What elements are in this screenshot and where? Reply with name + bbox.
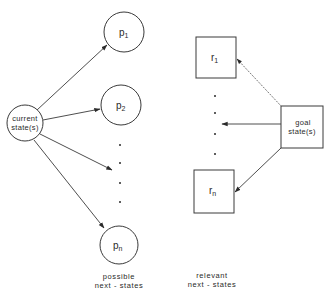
possible-state-node-p2: p2 <box>101 85 141 125</box>
relevant-caption-line1: relevant <box>196 271 228 280</box>
current-state-label-line2: state(s) <box>11 123 39 132</box>
relevant-caption-line2: next - states <box>188 280 237 289</box>
pn-subscript: n <box>119 245 123 252</box>
current-state-node: current state(s) <box>7 105 43 141</box>
relevant-states-ellipsis <box>214 95 216 155</box>
possible-states-ellipsis <box>119 144 121 203</box>
relevant-state-node-r1: r1 <box>196 37 236 78</box>
possible-state-node-p1: p1 <box>104 12 144 52</box>
goal-state-label-line1: goal <box>295 118 310 127</box>
edge-goal-to-r1 <box>237 59 282 107</box>
goal-state-node: goal state(s) <box>281 106 323 148</box>
current-state-label-line1: current <box>12 114 38 123</box>
search-direction-diagram: current state(s) p1 p2 pn possible next … <box>0 0 335 306</box>
edge-current-to-ellipsis <box>40 134 112 170</box>
edge-goal-to-rn <box>235 148 281 192</box>
edge-current-to-pn <box>34 140 104 228</box>
possible-caption-line2: next - states <box>95 281 144 290</box>
rn-subscript: n <box>212 190 216 197</box>
p1-subscript: 1 <box>125 32 129 39</box>
relevant-state-node-rn: rn <box>194 170 234 213</box>
forward-edges <box>34 45 112 228</box>
possible-caption-line1: possible <box>103 272 135 281</box>
possible-state-node-pn: pn <box>100 226 138 264</box>
r1-subscript: 1 <box>214 57 218 64</box>
goal-state-label-line2: state(s) <box>288 127 316 136</box>
edge-current-to-p1 <box>37 45 107 110</box>
edge-current-to-p2 <box>43 109 100 120</box>
p2-subscript: 2 <box>122 105 126 112</box>
